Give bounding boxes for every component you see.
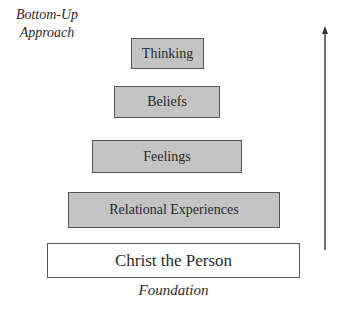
level-label: Christ the Person: [115, 251, 232, 271]
level-relational-experiences: Relational Experiences: [68, 192, 280, 228]
up-arrow-icon: [317, 26, 333, 252]
level-beliefs: Beliefs: [114, 86, 220, 118]
approach-label: Bottom-Up Approach: [4, 6, 90, 42]
level-label: Thinking: [142, 46, 193, 62]
approach-label-line-2: Approach: [4, 24, 90, 42]
level-feelings: Feelings: [92, 140, 242, 173]
level-christ-the-person: Christ the Person: [47, 243, 300, 278]
foundation-label: Foundation: [47, 282, 300, 299]
approach-label-line-1: Bottom-Up: [4, 6, 90, 24]
level-label: Beliefs: [147, 94, 187, 110]
level-label: Relational Experiences: [109, 202, 238, 218]
level-thinking: Thinking: [131, 38, 204, 69]
level-label: Feelings: [143, 149, 190, 165]
